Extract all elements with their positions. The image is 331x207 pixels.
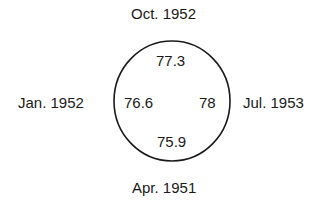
value-right: 78 [199,95,216,110]
label-top: Oct. 1952 [131,6,196,21]
value-top: 77.3 [156,53,185,68]
value-left: 76.6 [124,95,153,110]
label-bottom: Apr. 1951 [132,180,196,195]
label-right: Jul. 1953 [243,95,304,110]
value-bottom: 75.9 [157,134,186,149]
label-left: Jan. 1952 [18,95,84,110]
